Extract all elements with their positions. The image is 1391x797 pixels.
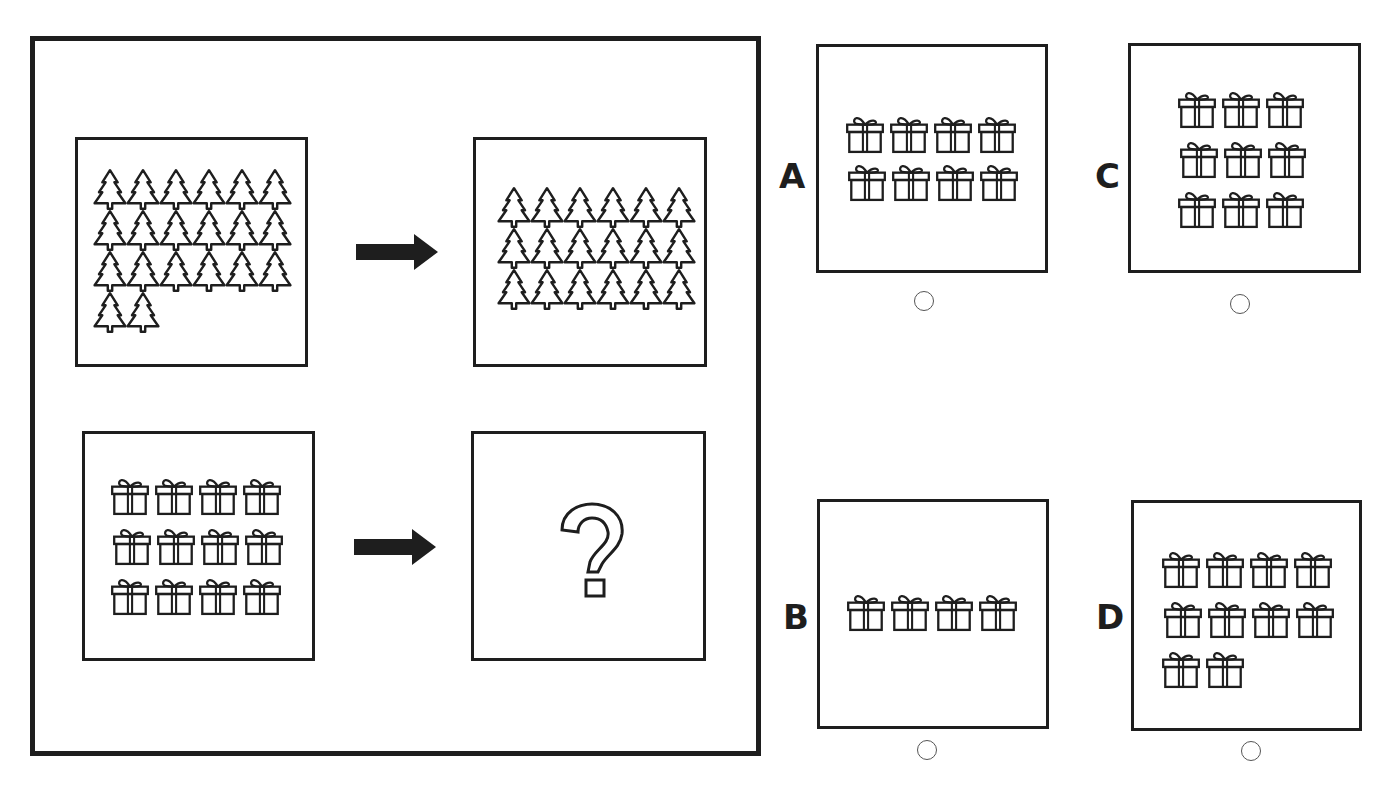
tree-icon: [194, 170, 225, 209]
gift-icon: [1267, 193, 1303, 227]
tree-icon: [128, 252, 159, 291]
gift-icon: [979, 118, 1015, 152]
gift-icon: [892, 596, 928, 630]
gift-icon: [1179, 193, 1215, 227]
gift-icon: [114, 530, 150, 564]
gift-icon: [936, 596, 972, 630]
question-mark-icon: [556, 502, 628, 606]
option-c-panel[interactable]: [1128, 43, 1361, 273]
tree-icon: [499, 229, 530, 268]
tree-icon: [598, 229, 629, 268]
tree-icon: [631, 270, 662, 309]
gift-icon: [1207, 553, 1243, 587]
gift-icon: [112, 480, 148, 514]
tree-icon: [128, 170, 159, 209]
gift-icon: [1163, 553, 1199, 587]
gift-icon: [1209, 603, 1245, 637]
gift-icon: [1179, 93, 1215, 127]
option-d-label: D: [1096, 600, 1124, 634]
tree-icon: [532, 229, 563, 268]
tree-icon: [128, 293, 159, 332]
tree-icon: [664, 270, 695, 309]
gift-icon: [1223, 93, 1259, 127]
option-c-label: C: [1095, 159, 1120, 193]
option-b-panel[interactable]: [817, 499, 1049, 729]
gift-icon: [1297, 603, 1333, 637]
gift-icon: [158, 530, 194, 564]
gift-icon: [244, 580, 280, 614]
tree-icon: [499, 188, 530, 227]
gift-icon: [112, 580, 148, 614]
gift-icon: [1253, 603, 1289, 637]
tree-icon: [565, 270, 596, 309]
tree-icon: [227, 211, 258, 250]
option-a-label: A: [779, 159, 805, 193]
tree-icon: [95, 170, 126, 209]
option-b-label: B: [783, 600, 809, 634]
tree-icon: [194, 211, 225, 250]
gift-icon: [1223, 193, 1259, 227]
tree-grid: [495, 186, 702, 316]
gift-icon: [156, 580, 192, 614]
gift-grid: [1160, 545, 1338, 693]
gift-icon: [1267, 93, 1303, 127]
option-d-panel[interactable]: [1131, 500, 1362, 731]
tree-icon: [161, 170, 192, 209]
gift-icon: [202, 530, 238, 564]
option-c-radio[interactable]: [1230, 294, 1250, 314]
gift-icon: [1269, 143, 1305, 177]
gift-icon: [935, 118, 971, 152]
question-answer-panel: [471, 431, 706, 661]
option-d-radio[interactable]: [1241, 741, 1261, 761]
option-b-radio[interactable]: [917, 740, 937, 760]
tree-icon: [95, 252, 126, 291]
tree-grid: [91, 168, 298, 339]
tree-icon: [565, 229, 596, 268]
question-source-panel: [82, 431, 315, 661]
gift-icon: [1163, 653, 1199, 687]
right-arrow-icon: [354, 527, 438, 567]
tree-icon: [499, 270, 530, 309]
tree-icon: [631, 229, 662, 268]
option-a-panel[interactable]: [816, 44, 1048, 273]
tree-icon: [194, 252, 225, 291]
tree-icon: [260, 211, 291, 250]
example-result-panel: [473, 137, 707, 367]
gift-grid: [109, 472, 287, 620]
tree-icon: [532, 188, 563, 227]
gift-grid: [1176, 85, 1310, 233]
gift-icon: [893, 166, 929, 200]
tree-icon: [631, 188, 662, 227]
gift-icon: [156, 480, 192, 514]
gift-icon: [849, 166, 885, 200]
gift-icon: [980, 596, 1016, 630]
tree-icon: [664, 188, 695, 227]
tree-icon: [95, 211, 126, 250]
gift-icon: [891, 118, 927, 152]
tree-icon: [227, 252, 258, 291]
gift-icon: [200, 580, 236, 614]
example-source-panel: [75, 137, 308, 367]
tree-icon: [532, 270, 563, 309]
gift-icon: [1165, 603, 1201, 637]
tree-icon: [565, 188, 596, 227]
tree-icon: [227, 170, 258, 209]
gift-icon: [847, 118, 883, 152]
tree-icon: [161, 252, 192, 291]
option-a-radio[interactable]: [914, 291, 934, 311]
tree-icon: [260, 252, 291, 291]
gift-icon: [1251, 553, 1287, 587]
gift-icon: [1181, 143, 1217, 177]
gift-grid: [845, 588, 1023, 636]
gift-icon: [1207, 653, 1243, 687]
gift-icon: [246, 530, 282, 564]
gift-grid: [844, 110, 1022, 206]
gift-icon: [937, 166, 973, 200]
gift-icon: [848, 596, 884, 630]
tree-icon: [161, 211, 192, 250]
right-arrow-icon: [356, 232, 440, 272]
tree-icon: [598, 188, 629, 227]
tree-icon: [128, 211, 159, 250]
tree-icon: [598, 270, 629, 309]
gift-icon: [1295, 553, 1331, 587]
